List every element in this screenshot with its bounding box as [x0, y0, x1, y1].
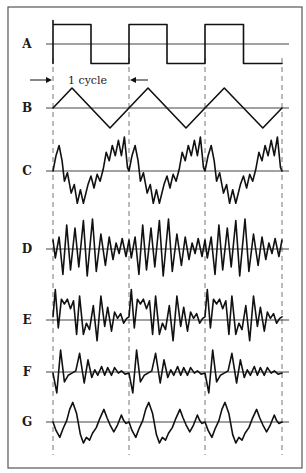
waveform-e: E	[22, 290, 289, 341]
waveform-trace	[53, 350, 282, 393]
waveform-label: B	[22, 101, 32, 115]
waveform-label: C	[22, 164, 32, 178]
waveform-diagram: 1 cycle ABCDEFG	[0, 0, 306, 473]
waveform-figure: 1 cycle ABCDEFG	[0, 0, 306, 473]
waveform-trace	[53, 290, 282, 341]
waveform-trace	[53, 402, 282, 443]
cycle-label: 1 cycle	[68, 74, 107, 87]
waveform-label: G	[22, 415, 32, 429]
cycle-annotation: 1 cycle	[30, 74, 148, 87]
waveform-b: B	[22, 88, 289, 128]
waveform-trace	[53, 137, 282, 203]
waveform-label: E	[22, 313, 31, 327]
waveform-rows: ABCDEFG	[21, 21, 289, 444]
waveform-label: A	[21, 37, 32, 51]
waveform-trace	[53, 219, 282, 276]
figure-frame	[8, 7, 302, 468]
waveform-a: A	[21, 21, 289, 64]
left-arrowhead-icon	[46, 77, 52, 83]
waveform-trace	[53, 21, 282, 64]
waveform-f: F	[23, 350, 289, 393]
waveform-g: G	[22, 402, 289, 443]
waveform-label: D	[22, 242, 32, 256]
waveform-label: F	[23, 365, 32, 379]
waveform-d: D	[22, 219, 289, 276]
right-arrowhead-icon	[130, 77, 136, 83]
waveform-c: C	[22, 137, 289, 203]
